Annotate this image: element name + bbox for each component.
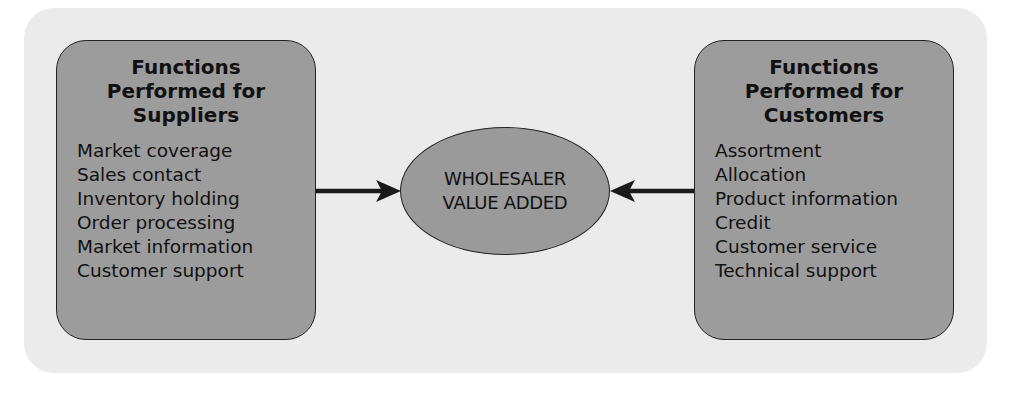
list-item: Technical support bbox=[715, 259, 953, 283]
list-item: Inventory holding bbox=[77, 187, 315, 211]
arrow-right-icon bbox=[316, 178, 402, 204]
list-item: Sales contact bbox=[77, 163, 315, 187]
supplier-functions-box: Functions Performed for Suppliers Market… bbox=[56, 40, 316, 340]
customer-functions-box: Functions Performed for Customers Assort… bbox=[694, 40, 954, 340]
title-line: Suppliers bbox=[57, 103, 315, 127]
center-line: WHOLESALER bbox=[444, 167, 566, 191]
arrow-left-icon bbox=[609, 178, 695, 204]
title-line: Functions bbox=[57, 55, 315, 79]
title-line: Customers bbox=[695, 103, 953, 127]
list-item: Allocation bbox=[715, 163, 953, 187]
list-item: Assortment bbox=[715, 139, 953, 163]
supplier-functions-title: Functions Performed for Suppliers bbox=[57, 55, 315, 127]
title-line: Performed for bbox=[57, 79, 315, 103]
customer-functions-title: Functions Performed for Customers bbox=[695, 55, 953, 127]
list-item: Market information bbox=[77, 235, 315, 259]
list-item: Customer support bbox=[77, 259, 315, 283]
list-item: Product information bbox=[715, 187, 953, 211]
supplier-functions-list: Market coverage Sales contact Inventory … bbox=[57, 139, 315, 283]
title-line: Performed for bbox=[695, 79, 953, 103]
list-item: Market coverage bbox=[77, 139, 315, 163]
title-line: Functions bbox=[695, 55, 953, 79]
wholesaler-value-added-node: WHOLESALER VALUE ADDED bbox=[400, 127, 610, 255]
customer-functions-list: Assortment Allocation Product informatio… bbox=[695, 139, 953, 283]
list-item: Credit bbox=[715, 211, 953, 235]
center-line: VALUE ADDED bbox=[443, 191, 568, 215]
list-item: Customer service bbox=[715, 235, 953, 259]
list-item: Order processing bbox=[77, 211, 315, 235]
